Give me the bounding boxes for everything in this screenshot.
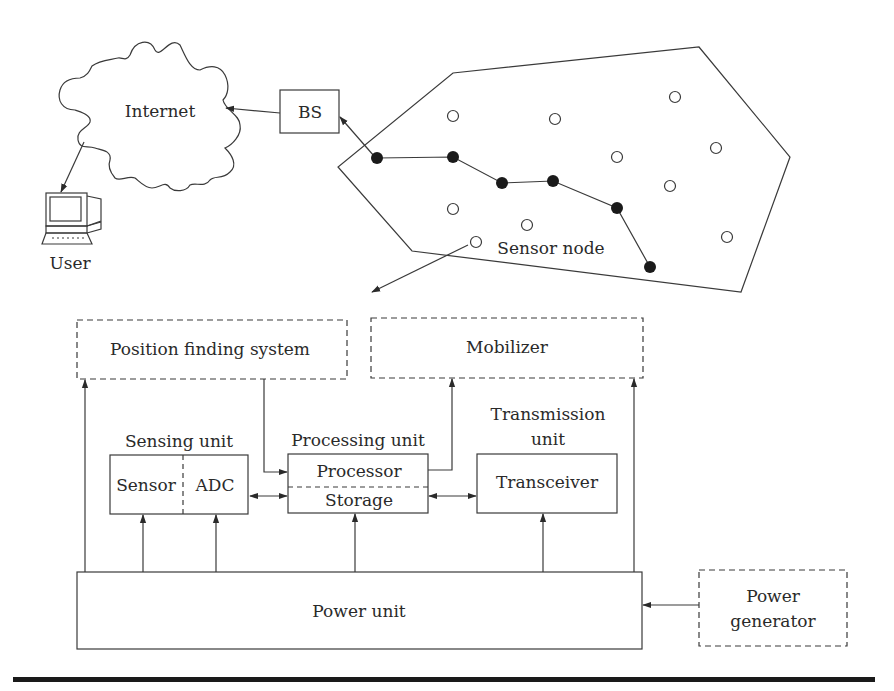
position-finding-label: Position finding system [110,340,310,359]
transceiver-label: Transceiver [496,473,598,492]
idle-sensor-node [522,220,533,231]
sensing-unit-title: Sensing unit [125,432,233,451]
idle-sensor-node [550,114,561,125]
processing-unit-title: Processing unit [291,431,425,450]
active-sensor-node [371,152,383,164]
active-sensor-node [547,175,559,187]
active-sensor-node [611,202,623,214]
idle-sensor-node [448,111,459,122]
idle-sensor-node [670,92,681,103]
idle-sensor-node [612,152,623,163]
processor-label: Processor [316,462,401,481]
internet-label: Internet [125,102,196,121]
user-label: User [49,254,90,273]
bottom-rule [13,677,875,682]
storage-label: Storage [325,491,393,510]
idle-sensor-node [722,232,733,243]
sensor-node-label: Sensor node [497,239,604,258]
transmission-title-2: unit [531,430,565,449]
sensor-label: Sensor [116,476,176,495]
idle-sensor-node [665,181,676,192]
mobilizer-label: Mobilizer [466,338,548,357]
power-unit-label: Power unit [312,602,405,621]
idle-sensor-node [448,204,459,215]
computer-icon [42,193,101,244]
transmission-title-1: Transmission [491,405,606,424]
power-generator-label-1: Power [746,587,800,606]
bs-label: BS [298,103,322,122]
active-sensor-node [496,177,508,189]
power-generator-label-2: generator [730,612,815,631]
active-sensor-node [447,151,459,163]
adc-label: ADC [196,476,235,495]
power-generator-box [699,570,847,646]
idle-sensor-node [471,237,482,248]
idle-sensor-node [711,143,722,154]
active-sensor-node [644,261,656,273]
